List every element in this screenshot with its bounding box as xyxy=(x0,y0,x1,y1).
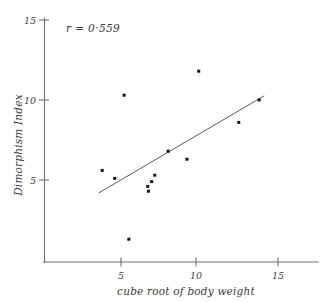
correlation-annotation: r = 0·559 xyxy=(66,22,120,34)
y-tick-label-15: 15 xyxy=(24,15,36,26)
data-point xyxy=(113,177,116,180)
data-point xyxy=(150,180,153,183)
axes-group xyxy=(44,18,318,263)
data-point xyxy=(167,150,170,153)
x-axis-ticks: 5 10 15 xyxy=(118,258,284,282)
data-point xyxy=(197,70,200,73)
data-point xyxy=(237,121,240,124)
y-axis-ticks: 15 10 5 xyxy=(24,15,49,186)
data-point xyxy=(127,238,130,241)
data-point xyxy=(147,190,150,193)
x-tick-label-10: 10 xyxy=(190,270,202,281)
plot-canvas: 15 10 5 5 10 15 cube root of body weight… xyxy=(0,0,325,302)
y-axis-title: Dimorphism Index xyxy=(12,94,24,197)
data-point xyxy=(258,99,261,102)
data-point xyxy=(101,169,104,172)
data-point xyxy=(153,174,156,177)
regression-line xyxy=(99,96,264,193)
data-point xyxy=(123,94,126,97)
y-tick-label-10: 10 xyxy=(24,95,36,106)
x-tick-label-15: 15 xyxy=(272,270,284,281)
y-tick-label-5: 5 xyxy=(30,175,36,186)
data-point xyxy=(146,185,149,188)
x-tick-label-5: 5 xyxy=(118,270,124,281)
data-point xyxy=(185,158,188,161)
scatter-plot-figure: 15 10 5 5 10 15 cube root of body weight… xyxy=(0,0,325,302)
data-points-group xyxy=(101,70,261,241)
x-axis-title: cube root of body weight xyxy=(117,285,255,297)
